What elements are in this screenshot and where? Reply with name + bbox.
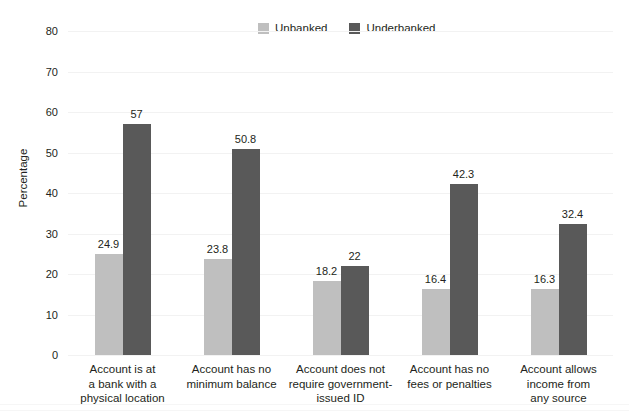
x-axis-category-line: Account allows — [504, 362, 613, 377]
x-axis-category-line: Account does not — [286, 362, 395, 377]
bar-value-label: 16.4 — [425, 273, 446, 285]
x-axis-category-label: Account has nominimum balance — [177, 362, 286, 391]
plot-area: 24.95723.850.818.22216.442.316.332.4 — [68, 31, 613, 355]
x-axis-category-line: fees or penalties — [395, 377, 504, 392]
bar-group-bars: 24.957 — [95, 31, 151, 355]
y-axis-tick-label: 20 — [26, 269, 58, 280]
y-axis-tick-label: 70 — [26, 66, 58, 77]
x-axis-category-line: income from — [504, 377, 613, 392]
y-axis-tick-label: 10 — [26, 309, 58, 320]
bar-underbanked[interactable]: 32.4 — [559, 224, 587, 355]
x-axis-category-label: Account does notrequire government-issue… — [286, 362, 395, 406]
gridline — [68, 355, 613, 356]
bar-group-bars: 23.850.8 — [204, 31, 260, 355]
bar-group: 23.850.8 — [204, 31, 260, 355]
bar-underbanked[interactable]: 42.3 — [450, 184, 478, 355]
bar-group-bars: 16.442.3 — [422, 31, 478, 355]
bar-unbanked[interactable]: 16.3 — [531, 289, 559, 355]
bar-group-bars: 18.222 — [313, 31, 369, 355]
y-axis-tick-label: 30 — [26, 228, 58, 239]
x-axis-category-line: issued ID — [286, 391, 395, 406]
y-axis-tick-label: 40 — [26, 188, 58, 199]
bar-unbanked[interactable]: 16.4 — [422, 289, 450, 355]
bar-value-label: 16.3 — [534, 273, 555, 285]
bar-value-label: 23.8 — [207, 243, 228, 255]
x-axis-category-line: minimum balance — [177, 377, 286, 392]
bar-unbanked[interactable]: 23.8 — [204, 259, 232, 355]
x-axis-category-line: any source — [504, 391, 613, 406]
x-axis-category-line: Account has no — [177, 362, 286, 377]
y-axis-tick-label: 80 — [26, 26, 58, 37]
x-axis-category-label: Account has nofees or penalties — [395, 362, 504, 391]
bar-group: 24.957 — [95, 31, 151, 355]
x-axis-category-line: Account has no — [395, 362, 504, 377]
bar-value-label: 50.8 — [235, 133, 256, 145]
bar-group: 16.442.3 — [422, 31, 478, 355]
y-axis-tick-label: 60 — [26, 107, 58, 118]
bar-unbanked[interactable]: 24.9 — [95, 254, 123, 355]
bar-group-bars: 16.332.4 — [531, 31, 587, 355]
x-axis-category-line: physical location — [68, 391, 177, 406]
bar-underbanked[interactable]: 22 — [341, 266, 369, 355]
bar-group: 16.332.4 — [531, 31, 587, 355]
bar-underbanked[interactable]: 50.8 — [232, 149, 260, 355]
x-axis-category-line: a bank with a — [68, 377, 177, 392]
y-axis-tick-label: 50 — [26, 147, 58, 158]
bar-chart: Unbanked Underbanked Percentage 80706050… — [0, 0, 629, 415]
bar-value-label: 57 — [130, 108, 142, 120]
x-axis: Account is ata bank with aphysical locat… — [68, 362, 613, 412]
bar-value-label: 24.9 — [98, 238, 119, 250]
x-axis-category-line: require government- — [286, 377, 395, 392]
bar-underbanked[interactable]: 57 — [123, 124, 151, 355]
bar-value-label: 42.3 — [453, 168, 474, 180]
bar-unbanked[interactable]: 18.2 — [313, 281, 341, 355]
x-axis-category-label: Account is ata bank with aphysical locat… — [68, 362, 177, 406]
x-axis-category-line: Account is at — [68, 362, 177, 377]
bar-value-label: 22 — [348, 250, 360, 262]
bar-value-label: 32.4 — [562, 208, 583, 220]
x-axis-category-label: Account allowsincome fromany source — [504, 362, 613, 406]
bar-value-label: 18.2 — [316, 265, 337, 277]
y-axis-tick-label: 0 — [26, 350, 58, 361]
bar-group: 18.222 — [313, 31, 369, 355]
